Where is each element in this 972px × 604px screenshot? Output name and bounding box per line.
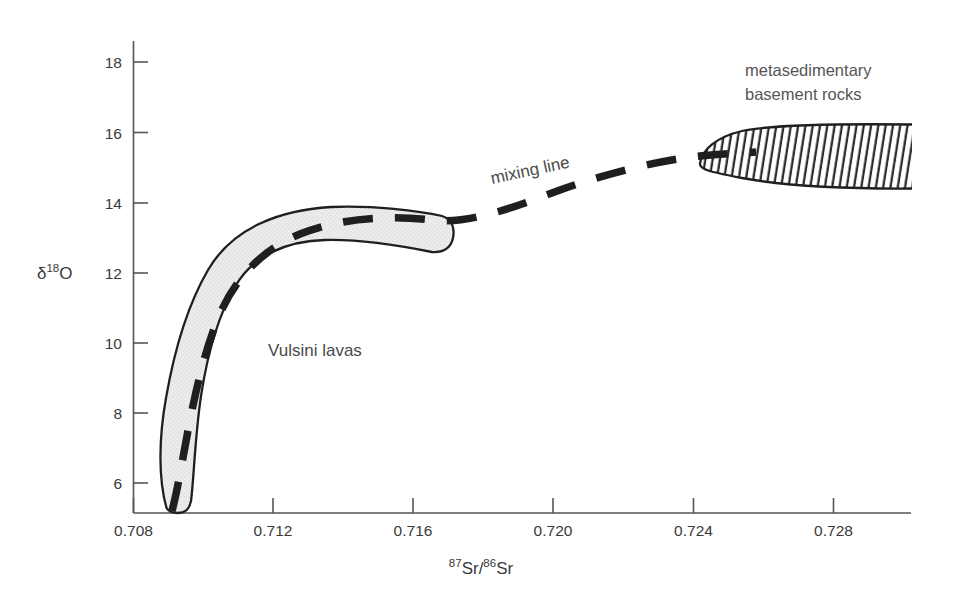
y-tick-label-14: 14: [105, 195, 123, 212]
y-axis-title-sup-18: 18: [46, 262, 59, 274]
y-tick-label-16: 16: [105, 125, 122, 142]
x-ticks-group: [134, 498, 834, 513]
label-metasedimentary-line2: basement rocks: [745, 85, 861, 103]
x-tick-label-0716: 0.716: [394, 522, 433, 539]
x-tick-label-0724: 0.724: [674, 522, 713, 539]
y-tick-labels-group: 18 16 14 12 10 8 6: [105, 54, 123, 492]
y-ticks-group: [134, 62, 149, 483]
x-tick-label-0708: 0.708: [114, 522, 153, 539]
y-axis-title-delta: δ: [37, 264, 46, 283]
label-mixing-line: mixing line: [489, 153, 572, 188]
y-tick-label-18: 18: [105, 54, 122, 71]
x-axis-title-base-sr2: Sr: [496, 559, 513, 578]
y-tick-label-10: 10: [105, 335, 123, 352]
isotope-mixing-figure: 18 16 14 12 10 8 6 0.708 0.712 0.716 0.7…: [0, 0, 972, 604]
x-tick-labels-group: 0.708 0.712 0.716 0.720 0.724 0.728: [114, 522, 853, 539]
x-tick-label-0720: 0.720: [534, 522, 573, 539]
plot-canvas: 18 16 14 12 10 8 6 0.708 0.712 0.716 0.7…: [0, 0, 972, 604]
x-axis-title-sup-87: 87: [449, 557, 462, 569]
y-axis-title-base-o: O: [59, 264, 72, 283]
x-axis-title-base-sr1: Sr/: [462, 559, 484, 578]
axes-group: [134, 41, 912, 513]
y-axis-title: δ18O: [37, 262, 73, 283]
mixing-line-path: [172, 152, 756, 511]
series-metasedimentary-basement-rocks: [700, 124, 912, 188]
label-vulsini-lavas: Vulsini lavas: [268, 341, 362, 360]
x-tick-label-0712: 0.712: [254, 522, 293, 539]
y-tick-label-6: 6: [113, 475, 122, 492]
series-mixing-line: [172, 152, 756, 511]
y-tick-label-8: 8: [113, 405, 122, 422]
label-metasedimentary-line1: metasedimentary: [745, 61, 872, 79]
y-tick-label-12: 12: [105, 265, 122, 282]
x-tick-label-0728: 0.728: [814, 522, 853, 539]
x-axis-title: 87Sr/86Sr: [449, 557, 514, 578]
x-axis-title-sup-86: 86: [483, 557, 496, 569]
